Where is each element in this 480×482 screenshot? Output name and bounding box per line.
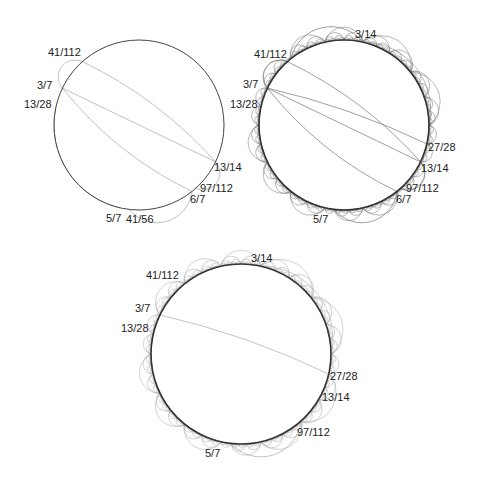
geodesic-arc <box>58 60 82 88</box>
boundary-point-label: 97/112 <box>297 426 330 438</box>
geodesic-arc <box>62 88 192 191</box>
geodesic-arc <box>62 88 215 162</box>
boundary-point-label: 6/7 <box>190 193 205 205</box>
boundary-point-label: 13/28 <box>230 98 258 110</box>
geodesic-arc <box>287 62 420 162</box>
hyperbolic-disk-figure: 41/1123/713/2813/1497/1126/75/741/56 3/1… <box>0 0 480 482</box>
boundary-point-label: 27/28 <box>428 141 456 153</box>
boundary-point-label: 13/14 <box>214 161 242 173</box>
boundary-point-label: 13/28 <box>24 98 52 110</box>
boundary-circle <box>151 264 331 444</box>
boundary-point-label: 5/7 <box>205 447 220 459</box>
geodesic-arc <box>160 315 329 374</box>
disk-panel-3: 3/1441/1123/713/2827/2813/1497/1125/7 <box>121 250 358 459</box>
boundary-point-label: 3/7 <box>243 78 258 90</box>
boundary-point-label: 5/7 <box>313 213 328 225</box>
boundary-point-label: 3/7 <box>37 79 52 91</box>
geodesic-arc <box>267 88 397 191</box>
boundary-point-label: 13/14 <box>421 162 449 174</box>
geodesic-arc <box>291 27 363 59</box>
disk-panel-2: 3/1441/1123/713/2827/2813/1497/1126/75/7 <box>230 27 456 225</box>
geodesic-arc <box>326 324 341 354</box>
boundary-point-label: 5/7 <box>106 212 121 224</box>
boundary-point-label: 27/28 <box>330 370 358 382</box>
geodesic-arc <box>261 259 312 297</box>
boundary-point-label: 3/14 <box>355 28 376 40</box>
boundary-point-label: 6/7 <box>396 193 411 205</box>
geodesic-arc <box>231 421 301 457</box>
boundary-point-label: 41/56 <box>126 213 154 225</box>
boundary-point-label: 3/14 <box>251 252 272 264</box>
geodesic-arc <box>82 62 215 162</box>
disk-panel-1: 41/1123/713/2813/1497/1126/75/741/56 <box>24 40 242 225</box>
boundary-point-label: 41/112 <box>48 46 81 58</box>
geodesic-arc <box>267 88 420 162</box>
boundary-point-label: 13/14 <box>322 391 350 403</box>
boundary-point-label: 13/28 <box>121 322 149 334</box>
boundary-point-label: 3/7 <box>135 302 150 314</box>
boundary-point-label: 41/112 <box>146 269 179 281</box>
boundary-point-label: 41/112 <box>254 48 287 60</box>
